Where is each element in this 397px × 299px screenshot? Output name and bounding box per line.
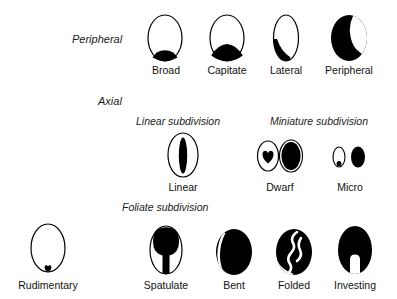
caption-micro: Micro [337, 181, 363, 193]
capitate-icon [206, 13, 248, 63]
dwarf-icon [256, 137, 304, 175]
specimen-dwarf [256, 137, 304, 175]
group-label-axial: Axial [98, 95, 122, 107]
morphology-figure: Peripheral Broad Capitate Lateral [0, 0, 397, 299]
broad-icon [146, 13, 186, 63]
lateral-icon [271, 13, 301, 63]
caption-broad: Broad [152, 64, 180, 76]
caption-rudimentary: Rudimentary [18, 279, 78, 291]
specimen-folded [271, 227, 317, 277]
peripheral-icon [327, 13, 371, 63]
subdivision-label-foliate: Foliate subdivision [122, 201, 208, 213]
specimen-linear [164, 131, 202, 179]
folded-icon [271, 227, 317, 277]
linear-icon [164, 131, 202, 179]
specimen-micro [330, 144, 370, 172]
caption-peripheral: Peripheral [325, 64, 373, 76]
caption-spatulate: Spatulate [144, 279, 188, 291]
investing-icon [333, 225, 377, 277]
caption-linear: Linear [168, 181, 197, 193]
subdivision-label-miniature: Miniature subdivision [270, 115, 368, 127]
caption-folded: Folded [278, 279, 310, 291]
specimen-rudimentary [26, 222, 70, 276]
specimen-lateral [271, 13, 301, 63]
specimen-investing [333, 225, 377, 277]
rudimentary-icon [26, 222, 70, 276]
caption-lateral: Lateral [270, 64, 302, 76]
caption-bent: Bent [223, 279, 245, 291]
caption-investing: Investing [334, 279, 376, 291]
specimen-capitate [206, 13, 248, 63]
specimen-peripheral [327, 13, 371, 63]
specimen-bent [211, 227, 257, 277]
caption-capitate: Capitate [207, 64, 246, 76]
group-label-peripheral: Peripheral [72, 33, 122, 45]
caption-dwarf: Dwarf [266, 181, 293, 193]
spatulate-icon [145, 224, 187, 276]
subdivision-label-linear: Linear subdivision [136, 115, 220, 127]
specimen-spatulate [145, 224, 187, 276]
bent-icon [211, 227, 257, 277]
micro-icon [330, 144, 370, 172]
specimen-broad [146, 13, 186, 63]
